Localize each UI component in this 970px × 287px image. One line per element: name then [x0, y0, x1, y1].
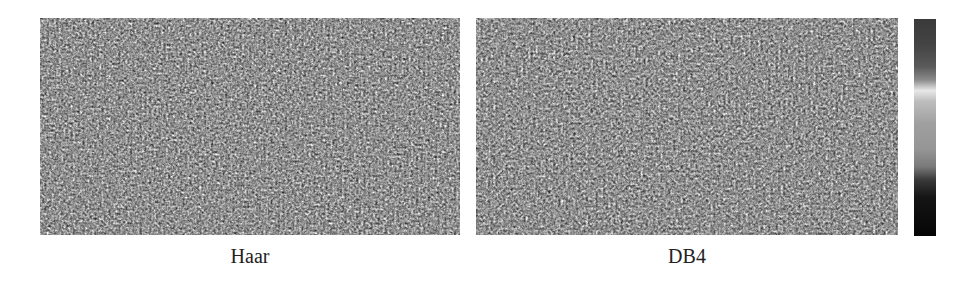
haar-noise-image: [40, 18, 460, 235]
db4-label: DB4: [587, 245, 787, 268]
haar-label: Haar: [150, 245, 350, 268]
db4-noise-image: [476, 18, 898, 235]
colorbar: [914, 19, 936, 236]
